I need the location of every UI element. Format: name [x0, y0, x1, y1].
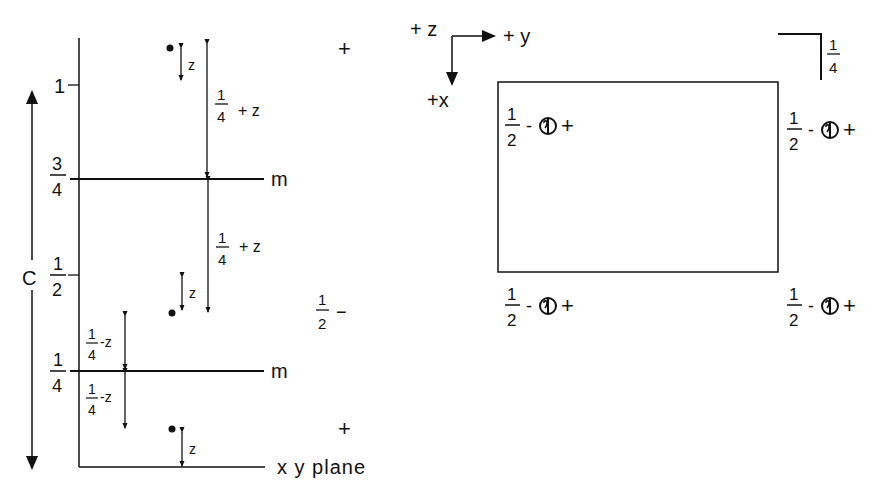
circle-comma-icon — [540, 298, 556, 314]
svg-text:+ z: + z — [238, 102, 260, 119]
distance-arrow-upper: 1 4 + z — [207, 44, 260, 177]
atom-bottom — [169, 426, 176, 433]
axis-z-label: + z — [410, 18, 437, 40]
svg-text:z: z — [189, 285, 196, 301]
atom-top — [167, 45, 174, 52]
svg-text:4: 4 — [88, 347, 96, 363]
atom-middle — [169, 310, 176, 317]
svg-text:+ z: + z — [239, 238, 261, 255]
svg-text:2: 2 — [507, 311, 516, 330]
svg-text:1: 1 — [789, 109, 798, 128]
corner-label-bottom-right: 12-+ — [787, 285, 856, 330]
svg-text:2: 2 — [789, 311, 798, 330]
svg-text:1: 1 — [507, 105, 516, 124]
svg-text:-z: -z — [100, 334, 112, 350]
distance-arrow-lower-below: 1 4 -z — [86, 373, 125, 428]
distance-arrow-lower-above: 1 4 -z — [86, 316, 125, 369]
svg-text:+: + — [843, 117, 856, 142]
height-sign-top: + — [338, 36, 351, 61]
height-sign-bottom: + — [338, 416, 351, 441]
svg-text:+: + — [561, 293, 574, 318]
svg-text:z: z — [188, 57, 195, 73]
unit-cell-rect — [498, 82, 778, 272]
svg-text:-: - — [526, 116, 532, 136]
svg-text:z: z — [189, 441, 196, 457]
circle-comma-icon — [822, 122, 838, 138]
mirror-label-lower: m — [271, 360, 288, 382]
svg-text:-: - — [526, 296, 532, 316]
svg-text:1: 1 — [507, 285, 516, 304]
svg-text:2: 2 — [52, 280, 62, 300]
svg-text:2: 2 — [318, 315, 326, 332]
level-three-quarter-label: 3 4 — [50, 154, 66, 200]
distance-arrow-middle: 1 4 + z — [208, 181, 261, 312]
right-panel: + z + y +x 1 4 12-+12-+12-+12-+ — [410, 18, 856, 330]
svg-text:1: 1 — [88, 381, 96, 397]
symmetry-diagram: C x y plane 1 3 4 1 2 1 4 m m — [0, 0, 892, 494]
svg-text:+: + — [561, 113, 574, 138]
c-axis-label: C — [22, 267, 36, 289]
circle-comma-icon — [540, 118, 556, 134]
left-panel: C x y plane 1 3 4 1 2 1 4 m m — [22, 36, 366, 478]
corner-label-bottom-left: 12-+ — [505, 285, 574, 330]
svg-text:1: 1 — [53, 254, 63, 274]
axis-x-label: +x — [427, 89, 449, 111]
svg-text:4: 4 — [52, 180, 62, 200]
z-arrow-bottom: z — [182, 432, 196, 466]
quarter-marker-label: 1 4 — [827, 36, 840, 76]
svg-text:4: 4 — [217, 108, 225, 125]
z-arrow-top: z — [181, 48, 195, 80]
svg-text:1: 1 — [53, 350, 63, 370]
svg-text:−: − — [336, 302, 347, 322]
quarter-marker-bracket — [778, 34, 821, 80]
level-half-label: 1 2 — [50, 254, 66, 300]
svg-text:1: 1 — [218, 229, 226, 246]
svg-text:+: + — [843, 293, 856, 318]
svg-text:-z: -z — [100, 389, 112, 405]
level-1-label: 1 — [54, 75, 65, 97]
height-sign-middle: 1 2 − — [316, 291, 347, 332]
circle-comma-icon — [822, 298, 838, 314]
svg-text:2: 2 — [507, 131, 516, 150]
corner-label-top-left: 12-+ — [505, 105, 574, 150]
svg-text:-: - — [808, 120, 814, 140]
svg-text:1: 1 — [318, 291, 326, 308]
svg-text:1: 1 — [88, 326, 96, 342]
axis-y-label: + y — [503, 25, 530, 47]
svg-text:1: 1 — [789, 285, 798, 304]
svg-text:4: 4 — [88, 402, 96, 418]
svg-text:2: 2 — [789, 135, 798, 154]
xy-plane-label: x y plane — [277, 456, 366, 478]
mirror-label-upper: m — [271, 168, 288, 190]
svg-text:4: 4 — [218, 251, 226, 268]
z-arrow-middle: z — [182, 277, 196, 310]
corner-label-top-right: 12-+ — [787, 109, 856, 154]
svg-text:4: 4 — [52, 376, 62, 396]
svg-text:1: 1 — [829, 36, 837, 53]
svg-text:4: 4 — [829, 59, 837, 76]
svg-text:1: 1 — [217, 86, 225, 103]
svg-text:-: - — [808, 296, 814, 316]
svg-text:3: 3 — [52, 154, 62, 174]
level-quarter-label: 1 4 — [50, 350, 66, 396]
